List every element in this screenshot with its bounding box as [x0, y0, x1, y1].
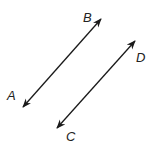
labels-layer: ABCD: [6, 10, 145, 144]
lines-layer: [23, 19, 135, 128]
point-label-d: D: [136, 50, 145, 65]
point-label-c: C: [66, 129, 76, 144]
line-cd: [57, 41, 135, 128]
point-label-b: B: [83, 10, 92, 25]
parallel-lines-diagram: ABCD: [0, 0, 155, 148]
point-label-a: A: [6, 88, 16, 103]
line-ab: [23, 19, 101, 107]
